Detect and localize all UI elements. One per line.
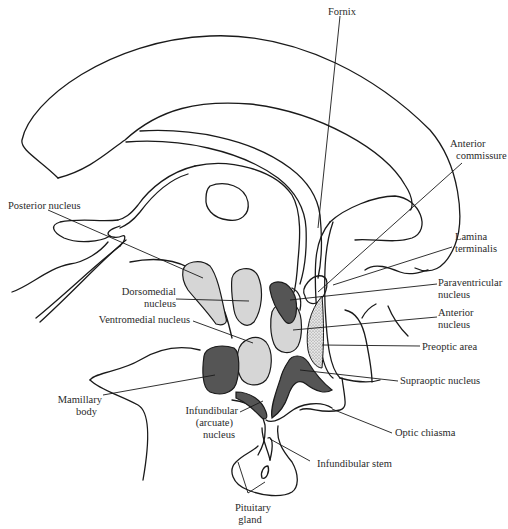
label-ventromedial: Ventromedial nucleus: [99, 314, 190, 325]
label-dorsomedial-2: nucleus: [144, 298, 176, 309]
label-posterior-nucleus: Posterior nucleus: [8, 200, 81, 211]
leader-paraventricular: [290, 284, 437, 300]
label-infundibular-nucleus-1: Infundibular: [186, 405, 239, 416]
label-optic-chiasma: Optic chiasma: [395, 427, 456, 438]
fornix-band: [126, 130, 321, 284]
label-preoptic-area: Preoptic area: [422, 341, 477, 352]
leader-posterior-nucleus: [48, 210, 203, 278]
leader-optic-chiasma: [332, 409, 392, 433]
label-infundibular-nucleus-2: (arcuate): [196, 417, 234, 429]
label-anterior-commissure-2: commissure: [456, 150, 507, 161]
leader-preoptic: [322, 345, 420, 346]
label-fornix: Fornix: [328, 6, 357, 17]
label-mamillary-1: Mamillary: [58, 394, 103, 405]
label-lamina-terminalis-2: terminalis: [455, 243, 497, 254]
mamillary-body-shape: [203, 346, 239, 394]
label-pituitary-1: Pituitary: [235, 502, 272, 513]
corpus-callosum: [22, 36, 460, 271]
pituitary-outline: [232, 404, 332, 496]
preoptic-area-shape: [307, 296, 323, 368]
leader-lamina-terminalis: [333, 247, 452, 285]
label-anterior-nucleus-2: nucleus: [438, 319, 470, 330]
leader-anterior-commissure: [318, 163, 462, 292]
label-anterior-nucleus-1: Anterior: [438, 307, 474, 318]
label-supraoptic-nucleus: Supraoptic nucleus: [400, 375, 480, 386]
label-infundibular-nucleus-3: nucleus: [203, 429, 235, 440]
leader-infundibular-stem: [270, 439, 310, 461]
label-paraventricular-2: nucleus: [438, 289, 470, 300]
leader-mamillary: [103, 375, 215, 395]
ventromedial-nucleus-shape: [237, 337, 272, 384]
leader-pituitary-2: [248, 482, 265, 493]
dorsomedial-nucleus-shape: [232, 269, 262, 326]
label-paraventricular-1: Paraventricular: [438, 277, 503, 288]
label-infundibular-stem: Infundibular stem: [317, 458, 392, 469]
label-lamina-terminalis-1: Lamina: [455, 231, 487, 242]
label-pituitary-2: gland: [238, 514, 262, 525]
label-mamillary-2: body: [76, 406, 98, 417]
interthalamic-adhesion: [206, 184, 248, 221]
pineal-region: [12, 220, 126, 322]
infundibular-nucleus-shape: [236, 392, 267, 419]
light-nuclei: [183, 262, 302, 385]
hypothalamus-diagram: Fornix Anterior commissure Posterior nuc…: [0, 0, 508, 529]
label-anterior-commissure-1: Anterior: [450, 138, 486, 149]
label-dorsomedial-1: Dorsomedial: [122, 286, 176, 297]
